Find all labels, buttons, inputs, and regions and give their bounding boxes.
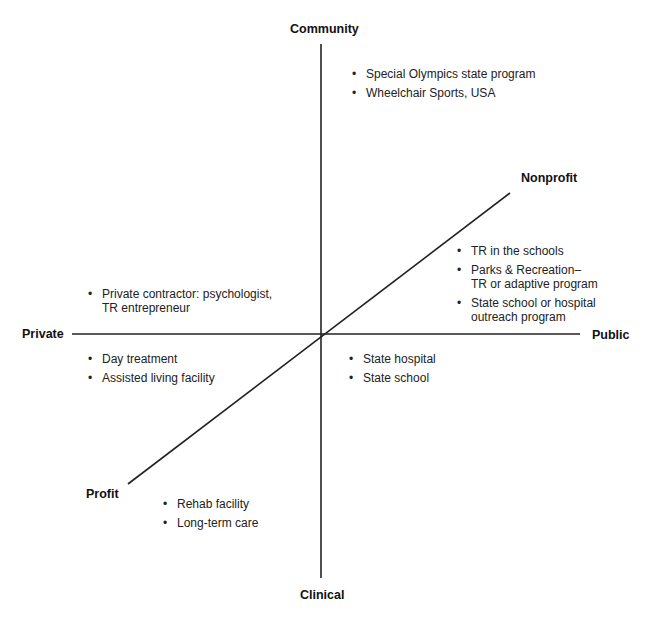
bullet-icon: • — [163, 497, 167, 511]
item-text: Wheelchair Sports, USA — [366, 86, 535, 100]
item-text: Assisted living facility — [102, 371, 215, 385]
list-item: • Special Olympics state program — [350, 67, 535, 81]
axis-label-community: Community — [290, 22, 359, 36]
list-item: • Long-term care — [161, 516, 258, 530]
list-item: • Rehab facility — [161, 497, 258, 511]
bullet-icon: • — [88, 352, 92, 366]
axis-label-private: Private — [22, 327, 64, 341]
axis-label-profit: Profit — [86, 487, 119, 501]
group-profit: • Rehab facility • Long-term care — [161, 497, 258, 535]
bullet-icon: • — [457, 296, 461, 310]
bullet-icon: • — [88, 371, 92, 385]
group-private-upper: • Private contractor: psychologist, TR e… — [86, 287, 272, 320]
item-text: TR entrepreneur — [102, 301, 272, 315]
list-item: • State hospital — [347, 352, 436, 366]
axis-label-nonprofit: Nonprofit — [521, 171, 577, 185]
list-item: • State school — [347, 371, 436, 385]
diagonal-axis-line — [128, 193, 510, 484]
item-text: Parks & Recreation– — [471, 263, 598, 277]
axis-label-clinical: Clinical — [300, 588, 344, 602]
item-text: State hospital — [363, 352, 436, 366]
list-item: • Wheelchair Sports, USA — [350, 86, 535, 100]
list-item: • Day treatment — [86, 352, 215, 366]
list-item: • State school or hospital outreach prog… — [455, 296, 598, 324]
bullet-icon: • — [457, 244, 461, 258]
group-community: • Special Olympics state program • Wheel… — [350, 67, 535, 105]
group-public-nonprofit: • TR in the schools • Parks & Recreation… — [455, 244, 598, 329]
bullet-icon: • — [349, 371, 353, 385]
item-text: TR in the schools — [471, 244, 598, 258]
axis-label-public: Public — [592, 328, 630, 342]
item-text: TR or adaptive program — [471, 277, 598, 291]
item-text: State school or hospital — [471, 296, 598, 310]
bullet-icon: • — [352, 67, 356, 81]
group-private-lower: • Day treatment • Assisted living facili… — [86, 352, 215, 390]
item-text: Day treatment — [102, 352, 215, 366]
item-text: outreach program — [471, 310, 598, 324]
bullet-icon: • — [88, 287, 92, 301]
bullet-icon: • — [352, 86, 356, 100]
bullet-icon: • — [163, 516, 167, 530]
item-text: Long-term care — [177, 516, 258, 530]
item-text: Special Olympics state program — [366, 67, 535, 81]
group-public-lower: • State hospital • State school — [347, 352, 436, 390]
bullet-icon: • — [457, 263, 461, 277]
list-item: • Private contractor: psychologist, TR e… — [86, 287, 272, 315]
item-text: Private contractor: psychologist, — [102, 287, 272, 301]
list-item: • TR in the schools — [455, 244, 598, 258]
list-item: • Parks & Recreation– TR or adaptive pro… — [455, 263, 598, 291]
item-text: State school — [363, 371, 436, 385]
list-item: • Assisted living facility — [86, 371, 215, 385]
item-text: Rehab facility — [177, 497, 258, 511]
bullet-icon: • — [349, 352, 353, 366]
